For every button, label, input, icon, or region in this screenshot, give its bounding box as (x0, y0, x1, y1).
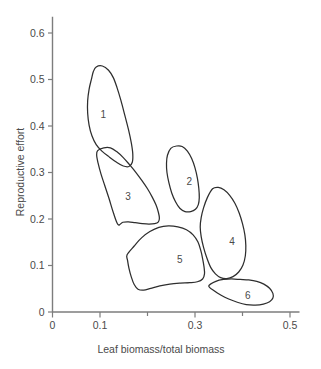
group-labels: 123456 (101, 109, 251, 301)
x-axis-ticks: 00.10.30.5 (50, 312, 298, 331)
group-label-5: 5 (177, 254, 183, 265)
chart-figure: 00.10.20.30.40.50.6 00.10.30.5 123456 Le… (0, 0, 321, 369)
group-outline-3 (97, 147, 160, 225)
group-outline-2 (166, 146, 199, 212)
group-label-3: 3 (125, 191, 131, 202)
x-axis-title: Leaf biomass/total biomass (97, 343, 224, 355)
group-label-4: 4 (229, 236, 235, 247)
axes-group (53, 17, 300, 312)
group-label-6: 6 (245, 290, 251, 301)
group-outlines (87, 66, 273, 305)
group-label-2: 2 (187, 176, 193, 187)
x-tick-label: 0.5 (283, 319, 298, 331)
group-outline-6 (209, 279, 274, 305)
y-axis-ticks: 00.10.20.30.40.50.6 (30, 27, 53, 318)
scatter-plot-svg: 00.10.20.30.40.50.6 00.10.30.5 123456 Le… (0, 0, 321, 369)
y-tick-label: 0.5 (30, 73, 45, 85)
y-tick-label: 0 (39, 306, 45, 318)
x-tick-label: 0.1 (93, 319, 108, 331)
group-outline-4 (200, 187, 246, 278)
y-tick-label: 0.6 (30, 27, 45, 39)
y-tick-label: 0.2 (30, 213, 45, 225)
y-axis-title: Reproductive effort (14, 128, 26, 217)
group-outline-1 (87, 66, 132, 167)
y-tick-label: 0.3 (30, 166, 45, 178)
group-outline-5 (127, 226, 205, 290)
y-tick-label: 0.4 (30, 120, 45, 132)
group-label-1: 1 (101, 109, 107, 120)
y-tick-label: 0.1 (30, 259, 45, 271)
x-tick-label: 0 (50, 319, 56, 331)
x-tick-label: 0.3 (188, 319, 203, 331)
